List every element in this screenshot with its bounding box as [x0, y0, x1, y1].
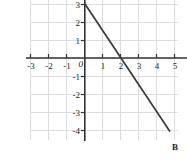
y-tick-label-2: 2	[76, 19, 81, 28]
y-tick-label--1: -1	[73, 73, 81, 82]
plot-canvas	[0, 0, 187, 165]
y-tick-label--4: -4	[73, 127, 81, 136]
coordinate-plane-figure: -3 -2 -1 1 2 3 4 5 0 3 2 1 -1 -2 -3 -4 B	[0, 0, 187, 165]
y-tick-label-1: 1	[76, 37, 81, 46]
line-endpoint-label-b: B	[172, 143, 178, 152]
y-tick-label--2: -2	[73, 91, 81, 100]
x-tick-label-1: 1	[101, 62, 106, 71]
x-tick-label-3: 3	[137, 62, 142, 71]
x-tick-label--3: -3	[27, 62, 35, 71]
origin-label: 0	[79, 60, 84, 69]
x-tick-label--1: -1	[63, 62, 71, 71]
x-tick-label-5: 5	[173, 62, 178, 71]
x-tick-label-4: 4	[155, 62, 160, 71]
y-tick-label-3: 3	[76, 1, 81, 10]
x-tick-label--2: -2	[45, 62, 53, 71]
x-tick-label-2: 2	[119, 62, 124, 71]
y-tick-label--3: -3	[73, 109, 81, 118]
